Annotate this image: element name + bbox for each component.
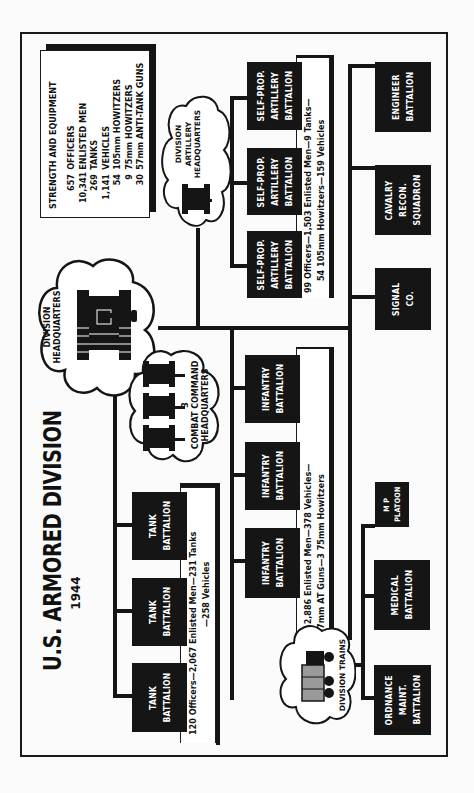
infantry-battalion-box: INFANTRYBATTALION [245,355,300,423]
unit-label: BATTALION [402,570,416,620]
strength-value: 10,341 [77,174,89,203]
strength-label: TANKS [88,140,100,170]
artillery-note-shadow [330,55,334,298]
tank-battalion-box: TANKBATTALION [132,578,187,646]
artillery-note-line1: 99 Officers—1,503 Enlisted Men—9 Tanks— [301,98,314,293]
unit-label: MEDICAL [388,575,402,615]
unit-label: BATTALION [410,675,424,725]
chart-year: 1944 [69,493,83,693]
unit-label: BATTALION [273,364,287,414]
unit-label: BATTALION [282,156,296,206]
support-spine [348,64,352,640]
artillery-connector [230,181,248,185]
strength-row: 975mm HOWITZERS [123,63,135,203]
artillery-battalion-box: SELF-PROP.ARTILLERYBATTALION [247,62,302,130]
unit-label: PLATOON [392,487,403,522]
unit-label: INFANTRY [259,367,273,411]
infantry-spine [230,328,234,700]
chart-title: U.S. ARMORED DIVISION [38,515,67,671]
unit-label: BATTALION [273,451,287,501]
infantry-battalion-box: INFANTRYBATTALION [245,528,300,598]
unit-label: SELF-PROP. [254,70,268,121]
artillery-hq-stem [196,228,200,328]
combat-command-cloud: 3COMBAT COMMANDHEADQUARTERS [125,345,223,465]
unit-label: BATTALION [160,501,174,551]
unit-label: SELF-PROP. [254,156,268,207]
strength-row: 1,141VEHICLES [100,63,112,203]
unit-label: INFANTRY [259,454,273,498]
unit-label: RECON. [396,183,410,217]
unit-label: INFANTRY [259,541,273,585]
label-line: DIVISION [43,284,53,370]
strength-value: 269 [88,174,100,203]
tank-battalion-box: TANKBATTALION [132,663,187,732]
unit-label: ENGINEER [389,74,403,120]
strength-row: 10,341ENLISTED MEN [77,63,89,203]
label-line: HEADQUARTERS [53,284,63,370]
strength-label: 75mm HOWITZERS [123,85,135,170]
engineer-connector [348,64,375,68]
strength-equipment-box: STRENGTH AND EQUIPMENT 657OFFICERS 10,34… [40,50,150,218]
division-trains-cloud: DIVISION TRAINS [276,625,356,725]
unit-label: TANK [146,686,160,710]
strength-row: 54105mm HOWITZERS [111,63,123,203]
infantry-note-line2: 9 57mm AT Guns—3 75mm Howitzers [314,474,327,643]
tank-note-line1: 120 Officers—2,067 Enlisted Men—231 Tank… [186,532,199,735]
strength-label: VEHICLES [100,126,112,170]
unit-label: ARTILLERY [268,158,282,206]
tank-icon [180,184,212,214]
ordnance-connector [361,696,375,700]
trains-spine [361,524,365,700]
strength-heading: STRENGTH AND EQUIPMENT [47,81,58,209]
strength-label: 105mm HOWITZERS [111,79,123,170]
artillery-hq-label: DIVISIONARTILLERYHEADQUARTERS [174,104,203,184]
unit-label: M P [381,498,392,512]
strength-list: 657OFFICERS 10,341ENLISTED MEN 269TANKS … [65,38,146,203]
mp-platoon-box: M PPLATOON [375,482,409,527]
unit-label: SIGNAL [389,282,403,315]
tank-spine [113,388,117,698]
mp-connector [361,524,375,528]
cavalry-connector [348,166,375,170]
medical-connector [361,594,375,598]
medical-battalion-box: MEDICALBATTALION [374,560,430,630]
strength-row: 269TANKS [88,63,100,203]
strength-value: 1,141 [100,174,112,203]
strength-row: 3057mm ANTI-TANK GUNS [134,63,146,203]
truck-icon [298,647,336,703]
strength-value: 30 [134,174,146,203]
unit-label: BATTALION [403,72,417,122]
tank-battalion-box: TANKBATTALION [132,492,187,560]
unit-label: CO. [403,291,417,307]
tank-icon [139,361,187,451]
unit-label: BATTALION [160,587,174,637]
label-line: ARTILLERY [184,104,194,184]
unit-label: ARTILLERY [268,72,282,120]
unit-label: SELF-PROP. [254,239,268,290]
unit-label: ARTILLERY [268,241,282,289]
strength-value: 54 [111,174,123,203]
signal-connector [348,295,375,299]
engineer-battalion-box: ENGINEERBATTALION [375,62,431,132]
artillery-hq-cloud: DIVISIONARTILLERYHEADQUARTERS [160,94,232,228]
signal-company-box: SIGNALCO. [375,268,431,330]
division-hq-label: DIVISIONHEADQUARTERS [43,284,63,370]
unit-label: CAVALRY [382,180,396,220]
unit-label: ORDNANCE [382,675,396,725]
tank-note-line2: —258 Vehicles [199,562,212,627]
unit-label: BATTALION [160,672,174,722]
strength-label: OFFICERS [65,125,77,169]
trunk-line [158,326,352,330]
strength-value: 657 [65,174,77,203]
tank-note-shadow [216,483,220,745]
label-line: 3 [181,359,191,451]
unit-label: BATTALION [282,239,296,289]
unit-label: BATTALION [282,71,296,121]
infantry-battalion-box: INFANTRYBATTALION [245,442,300,510]
org-chart-rotated: U.S. ARMORED DIVISION 1944 STRENGTH AND … [0,0,474,793]
artillery-connector [230,96,248,100]
label-line: COMBAT COMMAND [191,359,201,451]
strength-label: ENLISTED MEN [77,103,89,170]
label-line: HEADQUARTERS [193,104,203,184]
artillery-battalion-box: SELF-PROP.ARTILLERYBATTALION [247,231,302,298]
